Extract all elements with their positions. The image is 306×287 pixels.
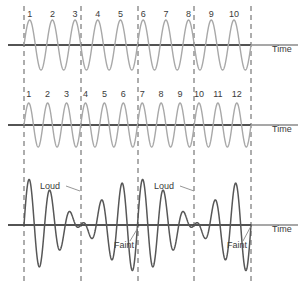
first-source-wave-peak-label-2: 2 [50,9,55,19]
first-source-wave-peak-label-4: 4 [95,9,100,19]
second-source-wave-peak-label-4: 4 [83,89,88,99]
second-source-wave-time-label: Time [272,124,292,134]
first-source-wave-peak-label-10: 10 [229,9,239,19]
first-source-wave-peak-label-8: 8 [186,9,191,19]
second-source-wave-peak-label-7: 7 [140,89,145,99]
second-source-wave-peak-label-9: 9 [178,89,183,99]
second-source-wave-peak-label-3: 3 [64,89,69,99]
first-source-wave-peak-label-3: 3 [73,9,78,19]
loud-label-1: Loud [40,181,60,191]
second-source-wave-peak-label-10: 10 [194,89,204,99]
first-source-wave-peak-label-1: 1 [27,9,32,19]
second-source-wave-peak-label-8: 8 [159,89,164,99]
second-source-wave-peak-label-12: 12 [232,89,242,99]
loud-label-2-leader [180,186,194,191]
second-source-wave-peak-label-2: 2 [45,89,50,99]
first-source-wave-peak-label-7: 7 [163,9,168,19]
second-source-wave-peak-label-6: 6 [121,89,126,99]
second-source-wave-peak-label-1: 1 [26,89,31,99]
loud-label-1-leader [66,186,80,191]
first-source-wave-peak-label-5: 5 [118,9,123,19]
second-source-wave-peak-label-5: 5 [102,89,107,99]
loud-label-2: Loud [154,181,174,191]
time-axis-labels-group: TimeTimeTime [272,44,292,234]
first-source-wave-peak-label-6: 6 [141,9,146,19]
resultant-beat-wave-time-label: Time [272,224,292,234]
first-source-wave-peak-label-9: 9 [209,9,214,19]
beats-diagram-canvas: 12345678910123456789101112 LoudFaintLoud… [0,0,306,287]
faint-label-1: Faint [114,240,135,250]
beats-diagram: 12345678910123456789101112 LoudFaintLoud… [0,0,306,287]
second-source-wave-peak-label-11: 11 [213,89,222,99]
faint-label-2: Faint [227,240,248,250]
first-source-wave-time-label: Time [272,44,292,54]
